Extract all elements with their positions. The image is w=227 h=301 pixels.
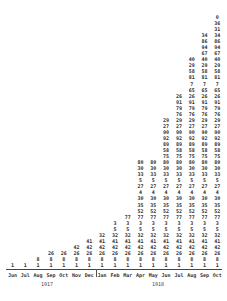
stack-value: 30: [211, 195, 224, 201]
stack-value: 75: [185, 153, 198, 159]
year-label-1917: 1917: [32, 281, 62, 287]
month-label: Aug: [185, 272, 198, 278]
stack-value: 5: [198, 177, 211, 183]
stack-value: 30: [198, 165, 211, 171]
stack-value: 1: [185, 262, 198, 268]
stack-value: 65: [211, 87, 224, 93]
stack-value: 1: [6, 262, 19, 268]
stack-value: 40: [185, 56, 198, 62]
stack-value: 32: [121, 232, 134, 238]
stack-value: 27: [147, 183, 160, 189]
stack-value: 4: [172, 189, 185, 195]
month-label: Jul: [172, 272, 185, 278]
stack-value: 26: [57, 250, 70, 256]
stack-value: 89: [185, 141, 198, 147]
stack-value: 27: [211, 123, 224, 129]
stack-value: 42: [108, 244, 121, 250]
stack-value: 8: [185, 256, 198, 262]
stack-value: 58: [198, 147, 211, 153]
stack-value: 58: [185, 68, 198, 74]
stack-value: 26: [198, 93, 211, 99]
stack-value: 27: [198, 183, 211, 189]
stack-value: 89: [198, 141, 211, 147]
stack-value: 41: [198, 238, 211, 244]
stack-value: 1: [211, 262, 224, 268]
stack-value: 76: [185, 111, 198, 117]
stack-value: 42: [172, 244, 185, 250]
stack-value: 26: [44, 250, 57, 256]
stack-value: 52: [160, 208, 173, 214]
stack-value: 52: [198, 208, 211, 214]
stack-value: 5: [172, 226, 185, 232]
stack-value: 90: [211, 129, 224, 135]
stack-value: 67: [198, 50, 211, 56]
stack-value: 35: [198, 202, 211, 208]
stack-value: 0: [211, 14, 224, 20]
month-label: Jan: [96, 272, 109, 278]
month-label: Mar: [121, 272, 134, 278]
stack-value: 30: [211, 165, 224, 171]
stack-value: 52: [172, 208, 185, 214]
stack-value: 1: [32, 262, 45, 268]
stack-value: 92: [160, 135, 173, 141]
stack-value: 41: [172, 238, 185, 244]
month-label: Feb: [108, 272, 121, 278]
stack-value: 8: [134, 256, 147, 262]
stack-value: 79: [172, 105, 185, 111]
stack-value: 35: [185, 202, 198, 208]
stack-value: 80: [147, 159, 160, 165]
stack-value: 29: [185, 62, 198, 68]
stack-value: 92: [198, 135, 211, 141]
stack-value: 30: [160, 195, 173, 201]
stack-value: 1: [121, 262, 134, 268]
stack-value: 5: [185, 177, 198, 183]
stack-value: 41: [211, 238, 224, 244]
stack-value: 58: [211, 147, 224, 153]
stack-value: 4: [160, 189, 173, 195]
stack-value: 27: [185, 183, 198, 189]
stack-value: 89: [172, 141, 185, 147]
stack-value: 4: [211, 189, 224, 195]
stack-value: 79: [198, 105, 211, 111]
month-label: Dec: [83, 272, 96, 278]
stacked-number-chart: 1118182618261826421826424118264241321826…: [0, 0, 227, 301]
stack-value: 5: [185, 226, 198, 232]
stack-value: 1: [108, 262, 121, 268]
stack-value: 27: [198, 123, 211, 129]
stack-value: 91: [185, 99, 198, 105]
stack-value: 76: [198, 111, 211, 117]
stack-value: 52: [134, 208, 147, 214]
stack-value: 36: [211, 20, 224, 26]
stack-value: 41: [185, 238, 198, 244]
stack-value: 3: [108, 220, 121, 226]
stack-value: 35: [147, 202, 160, 208]
stack-value: 26: [211, 93, 224, 99]
stack-value: 41: [160, 238, 173, 244]
stack-value: 26: [147, 250, 160, 256]
stack-value: 30: [134, 165, 147, 171]
stack-value: 3: [134, 220, 147, 226]
stack-value: 1: [147, 262, 160, 268]
stack-value: 52: [185, 208, 198, 214]
stack-value: 32: [96, 232, 109, 238]
stack-value: 33: [198, 171, 211, 177]
stack-value: 92: [185, 135, 198, 141]
month-label: Nov: [70, 272, 83, 278]
stack-value: 42: [96, 244, 109, 250]
stack-value: 5: [211, 226, 224, 232]
stack-value: 5: [134, 177, 147, 183]
stack-value: 33: [172, 171, 185, 177]
stack-value: 1: [134, 262, 147, 268]
stack-value: 26: [160, 250, 173, 256]
stack-value: 30: [172, 165, 185, 171]
stack-value: 76: [172, 111, 185, 117]
stack-value: 1: [57, 262, 70, 268]
month-label: Jun: [160, 272, 173, 278]
stack-value: 80: [211, 159, 224, 165]
month-label: Jul: [19, 272, 32, 278]
stack-value: 1: [19, 262, 32, 268]
stack-value: 80: [185, 159, 198, 165]
stack-value: 29: [160, 117, 173, 123]
stack-value: 29: [185, 117, 198, 123]
stack-value: 35: [211, 202, 224, 208]
